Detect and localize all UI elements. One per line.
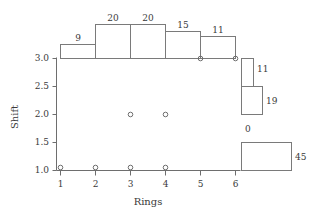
scatter-points	[58, 56, 238, 170]
right-hist-bar-label: 11	[257, 64, 268, 74]
x-tick-label: 2	[93, 179, 99, 189]
x-axis-title: Rings	[134, 196, 163, 207]
x-tick-label: 5	[198, 179, 204, 189]
x-tick-label: 6	[233, 179, 239, 189]
scatter-point	[58, 165, 63, 170]
right-hist-bar	[242, 59, 254, 87]
right-hist-bar-label: 0	[245, 124, 251, 134]
top-hist-bar-label: 9	[75, 33, 81, 43]
right-histogram: 11 19 0 45	[242, 59, 307, 171]
x-tick-label: 4	[163, 179, 169, 189]
x-tick-label: 1	[58, 179, 64, 189]
right-hist-bar	[242, 87, 263, 115]
scatter-point	[128, 165, 133, 170]
y-tick-label: 2.5	[35, 81, 50, 91]
top-hist-bar	[61, 45, 96, 59]
top-hist-bar-label: 15	[177, 20, 189, 30]
right-hist-bar	[242, 143, 292, 171]
right-hist-bar-label: 45	[295, 152, 307, 162]
x-tick-label: 3	[128, 179, 134, 189]
x-tick-labels: 1 2 3 4 5 6	[58, 179, 239, 189]
top-hist-bar	[131, 25, 166, 59]
top-hist-bar-label: 20	[107, 13, 119, 23]
y-tick-label: 1.5	[35, 137, 50, 147]
y-tick-label: 1.0	[35, 165, 50, 175]
scatter-point	[128, 112, 133, 117]
top-hist-bar-label: 20	[142, 13, 154, 23]
scatter-with-marginal-histograms: 9 20 20 15 11 11 19 0 45	[0, 0, 315, 220]
top-hist-bar	[166, 32, 201, 59]
plot-axes	[53, 58, 241, 176]
y-tick-label: 3.0	[35, 53, 50, 63]
y-axis-title: Shift	[9, 105, 20, 129]
scatter-point	[163, 165, 168, 170]
y-tick-labels: 3.0 2.5 2.0 1.5 1.0	[35, 53, 50, 175]
chart-canvas: 9 20 20 15 11 11 19 0 45	[0, 0, 315, 220]
right-hist-bar-label: 19	[266, 96, 278, 106]
y-tick-label: 2.0	[35, 109, 50, 119]
top-hist-bar-label: 11	[212, 25, 223, 35]
top-hist-bar	[96, 25, 131, 59]
top-hist-bar	[201, 37, 236, 59]
scatter-point	[163, 112, 168, 117]
top-histogram: 9 20 20 15 11	[61, 13, 236, 59]
scatter-point	[93, 165, 98, 170]
